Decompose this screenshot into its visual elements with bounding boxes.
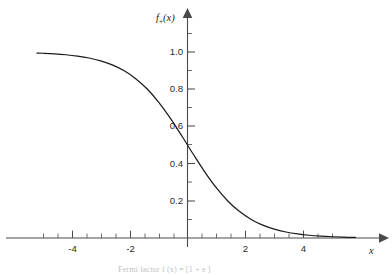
data-series-line xyxy=(37,53,355,237)
y-tick-label-0p6: 0.6 xyxy=(170,120,183,131)
figure-caption: Fermi factor f (x) = [1 + e ] xyxy=(118,265,211,274)
y-axis-major-ticks xyxy=(188,52,196,201)
figure-container: -4 -2 2 4 0.2 0.4 0.6 0.8 1.0 f+(x) x Fe… xyxy=(0,0,392,275)
y-tick-label-0p8: 0.8 xyxy=(170,83,183,94)
x-axis-title: x xyxy=(368,245,374,256)
y-tick-label-0p4: 0.4 xyxy=(170,158,184,169)
y-tick-label-1p0: 1.0 xyxy=(170,46,183,57)
y-axis-arrow-icon xyxy=(183,8,193,18)
y-tick-label-0p2: 0.2 xyxy=(170,195,183,206)
y-axis-title: f+(x) xyxy=(156,12,175,26)
x-tick-label-4: 4 xyxy=(301,243,307,254)
x-tick-label-neg4: -4 xyxy=(68,243,77,254)
x-tick-label-2: 2 xyxy=(243,243,248,254)
chart-plot: -4 -2 2 4 0.2 0.4 0.6 0.8 1.0 f+(x) x xyxy=(0,0,392,275)
figure-caption-strip: Fermi factor f (x) = [1 + e ] xyxy=(0,264,392,275)
x-tick-label-neg2: -2 xyxy=(126,243,135,254)
y-axis-title-arg: (x) xyxy=(163,12,175,24)
x-axis-arrow-icon xyxy=(379,233,389,243)
